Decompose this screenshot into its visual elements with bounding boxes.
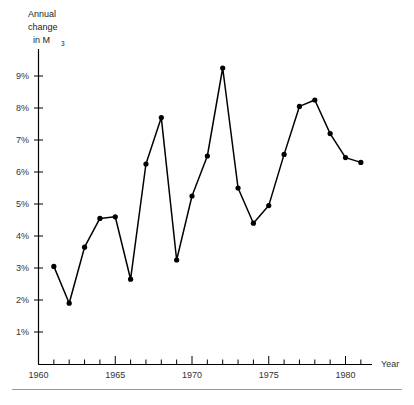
- data-point: [143, 161, 148, 166]
- x-axis-tick-label: 1965: [105, 370, 125, 380]
- data-point: [51, 264, 56, 269]
- x-axis-tick-label: 1975: [259, 370, 279, 380]
- data-point: [205, 153, 210, 158]
- data-point: [282, 152, 287, 157]
- x-axis-tick-label: 1960: [28, 370, 48, 380]
- y-axis-title-line-3: in M: [33, 35, 50, 45]
- y-axis-tick-label: 3%: [16, 263, 29, 273]
- data-point: [251, 221, 256, 226]
- data-point: [312, 97, 317, 102]
- y-axis-title-subscript: 3: [61, 40, 65, 47]
- data-point: [174, 257, 179, 262]
- data-point: [297, 104, 302, 109]
- axis-lines: [39, 49, 373, 365]
- y-axis-title: Annual change in M 3: [28, 9, 65, 47]
- y-axis-tick-label: 4%: [16, 231, 29, 241]
- footer-caption: [14, 396, 134, 402]
- y-axis-title-line-1: Annual: [28, 9, 56, 19]
- data-point: [189, 193, 194, 198]
- data-point: [82, 245, 87, 250]
- x-axis-ticks: 19601965197019751980: [28, 356, 360, 380]
- data-point: [343, 155, 348, 160]
- y-axis-tick-label: 2%: [16, 295, 29, 305]
- data-point: [358, 160, 363, 165]
- data-point: [97, 216, 102, 221]
- data-series-line: [54, 68, 361, 303]
- y-axis-tick-label: 9%: [16, 71, 29, 81]
- data-point: [220, 65, 225, 70]
- data-point: [67, 301, 72, 306]
- x-axis-label: Year: [381, 359, 399, 369]
- data-point-markers: [51, 65, 363, 305]
- y-axis-tick-label: 8%: [16, 103, 29, 113]
- line-chart: Annual change in M 3 1%2%3%4%5%6%7%8%9% …: [0, 0, 414, 405]
- x-axis-tick-label: 1980: [335, 370, 355, 380]
- data-point: [266, 203, 271, 208]
- data-point: [113, 214, 118, 219]
- data-point: [328, 131, 333, 136]
- y-axis-title-line-2: change: [28, 22, 58, 32]
- y-axis-tick-label: 1%: [16, 327, 29, 337]
- data-point: [128, 277, 133, 282]
- y-axis-tick-label: 7%: [16, 135, 29, 145]
- y-axis-tick-label: 5%: [16, 199, 29, 209]
- x-axis-tick-label: 1970: [182, 370, 202, 380]
- footer-divider: [12, 389, 402, 390]
- chart-page: Annual change in M 3 1%2%3%4%5%6%7%8%9% …: [0, 0, 414, 405]
- data-point: [159, 115, 164, 120]
- y-axis-tick-label: 6%: [16, 167, 29, 177]
- data-point: [235, 185, 240, 190]
